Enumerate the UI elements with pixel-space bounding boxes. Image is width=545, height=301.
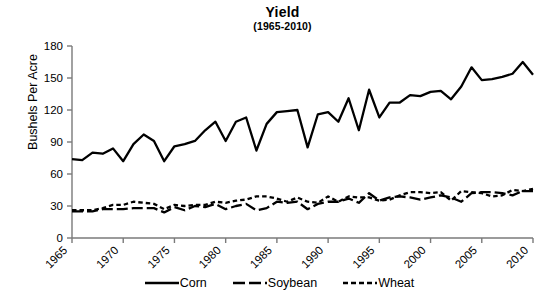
y-tick-label: 0 [57, 232, 63, 244]
x-tick-label: 2005 [453, 244, 480, 271]
y-tick-label: 60 [50, 168, 63, 180]
x-tick-label: 1990 [299, 244, 326, 271]
series-line-corn [72, 62, 533, 161]
y-tick-label: 90 [50, 136, 63, 148]
y-tick-label: 30 [50, 200, 63, 212]
legend-label-wheat: Wheat [378, 276, 414, 290]
x-tick-label: 1980 [196, 244, 223, 271]
legend-swatch-corn [145, 277, 179, 289]
x-tick-label: 1975 [145, 244, 172, 271]
x-tick-label: 1965 [43, 244, 70, 271]
y-tick-label: 150 [44, 72, 63, 84]
y-tick-label: 180 [44, 40, 63, 52]
y-tick-label: 120 [44, 104, 63, 116]
legend-item-soybean: Soybean [233, 276, 317, 290]
x-ticks-group: 1965197019751980198519901995200020052010 [43, 238, 533, 271]
x-tick-label: 1985 [248, 244, 275, 271]
legend-swatch-wheat [343, 277, 377, 289]
legend-label-soybean: Soybean [268, 276, 317, 290]
x-tick-label: 2000 [401, 244, 428, 271]
x-tick-label: 1970 [94, 244, 121, 271]
legend-item-wheat: Wheat [343, 276, 414, 290]
y-ticks-group: 0306090120150180 [44, 40, 72, 244]
yield-line-chart: Yield (1965-2010) Bushels Per Acre 03060… [0, 0, 545, 301]
legend-item-corn: Corn [145, 276, 207, 290]
plot-area: 0306090120150180 19651970197519801985199… [0, 0, 545, 301]
x-tick-label: 2010 [504, 244, 531, 271]
x-tick-label: 1995 [350, 244, 377, 271]
legend-swatch-soybean [233, 277, 267, 289]
chart-legend: Corn Soybean Wheat [0, 276, 545, 290]
legend-label-corn: Corn [180, 276, 207, 290]
series-group [72, 62, 533, 212]
